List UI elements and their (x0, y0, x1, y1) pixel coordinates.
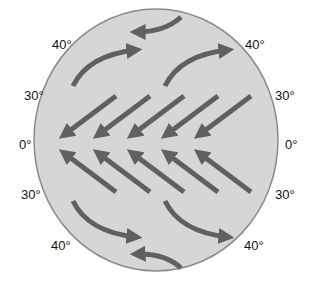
label-right-30n: 30° (275, 88, 295, 103)
label-right-40s: 40° (244, 238, 264, 253)
label-right-30s: 30° (275, 187, 295, 202)
label-left-equator: 0° (19, 137, 31, 152)
label-right-equator: 0° (285, 137, 297, 152)
label-left-30n: 30° (24, 88, 44, 103)
label-left-40n: 40° (52, 37, 72, 52)
wind-belts-diagram: 40° 30° 0° 30° 40° 40° 30° 0° 30° 40° (0, 0, 310, 287)
label-left-30s: 30° (21, 187, 41, 202)
label-right-40n: 40° (245, 37, 265, 52)
label-left-40s: 40° (51, 238, 71, 253)
